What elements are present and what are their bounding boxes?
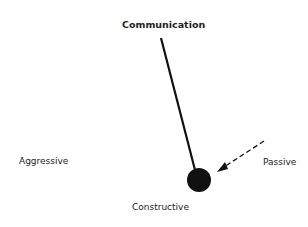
pendulum-graphic [0, 0, 308, 227]
label-constructive: Constructive [132, 202, 189, 212]
pendulum-bob [187, 168, 211, 192]
label-passive: Passive [263, 157, 296, 167]
motion-arrow-shaft [224, 141, 264, 167]
label-aggressive: Aggressive [19, 156, 68, 166]
motion-arrow-head-icon [217, 162, 228, 172]
pendulum-string [161, 38, 195, 170]
